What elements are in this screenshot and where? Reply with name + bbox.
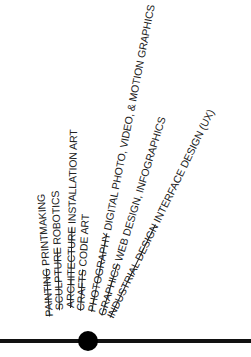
timeline-baseline [0,339,251,343]
new-discipline: ROBOTICS [49,190,63,244]
new-discipline: INSTALLATION ART [65,129,79,224]
new-discipline: CODE ART [76,214,91,267]
label-sculpture: SCULPTURE ROBOTICS [50,190,65,310]
new-discipline: DIGITAL PHOTO, VIDEO, & MOTION GRAPHICS [101,4,157,232]
old-discipline: SCULPTURE [51,247,65,310]
origin-node [78,331,98,351]
